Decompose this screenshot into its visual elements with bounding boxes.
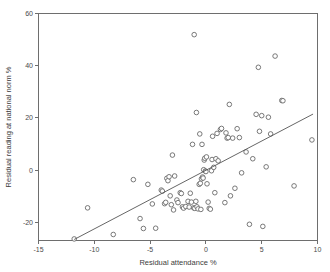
scatter-point — [215, 131, 220, 136]
scatter-point — [239, 171, 244, 176]
scatter-point — [223, 200, 228, 205]
scatter-point — [190, 142, 195, 147]
scatter-point — [261, 224, 266, 229]
scatter-point — [169, 202, 174, 207]
x-tick-label: -10 — [89, 246, 99, 253]
scatter-point — [247, 222, 252, 227]
scatter-point — [205, 182, 210, 187]
scatter-point — [206, 200, 211, 205]
scatter-point — [216, 159, 221, 164]
scatter-point — [264, 165, 269, 170]
y-axis-ticks: -200204060 — [23, 10, 39, 226]
scatter-point — [153, 226, 158, 231]
y-tick-label: 0 — [29, 167, 33, 174]
scatter-point — [194, 110, 199, 115]
scatter-point — [192, 32, 197, 37]
scatter-point — [228, 194, 233, 199]
scatter-point — [172, 174, 177, 179]
scatter-point — [219, 126, 224, 131]
x-axis-label: Residual attendance % — [139, 258, 216, 267]
x-tick-label: -5 — [147, 246, 153, 253]
scatter-point — [250, 156, 255, 161]
scatter-point — [281, 98, 286, 103]
scatter-point — [141, 226, 146, 231]
scatter-point — [197, 132, 202, 137]
scatter-point — [171, 208, 176, 213]
scatter-point — [201, 176, 206, 181]
x-tick-label: 5 — [260, 246, 264, 253]
scatter-point — [200, 142, 205, 147]
scatter-point — [273, 54, 278, 59]
scatter-point — [163, 200, 168, 205]
scatter-plot-figure: -15-10-50510 -200204060 Residual attenda… — [0, 0, 330, 272]
scatter-point — [194, 199, 199, 204]
trendline — [74, 114, 313, 239]
scatter-point — [310, 138, 315, 143]
scatter-point — [257, 129, 262, 134]
scatter-point — [199, 207, 204, 212]
scatter-point — [189, 200, 194, 205]
scatter-point — [266, 115, 271, 120]
scatter-point — [259, 113, 264, 118]
x-tick-label: 10 — [314, 246, 322, 253]
chart-canvas: -15-10-50510 -200204060 Residual attenda… — [0, 0, 330, 272]
scatter-point — [230, 136, 235, 141]
x-tick-label: 0 — [204, 246, 208, 253]
scatter-point — [176, 200, 181, 205]
y-tick-label: 20 — [25, 114, 33, 121]
data-points — [72, 32, 314, 241]
x-axis-ticks: -15-10-50510 — [33, 241, 321, 253]
scatter-point — [204, 155, 209, 160]
scatter-point — [167, 174, 172, 179]
scatter-point — [168, 194, 173, 199]
scatter-point — [233, 186, 238, 191]
scatter-point — [187, 205, 192, 210]
scatter-point — [292, 184, 297, 189]
axis-frame — [39, 14, 318, 241]
scatter-point — [254, 112, 259, 117]
scatter-point — [111, 232, 116, 237]
scatter-point — [213, 190, 218, 195]
scatter-point — [188, 191, 193, 196]
scatter-point — [198, 181, 203, 186]
scatter-point — [237, 135, 242, 140]
scatter-point — [235, 126, 240, 131]
scatter-point — [226, 135, 231, 140]
scatter-point — [208, 207, 213, 212]
scatter-point — [210, 134, 215, 139]
scatter-point — [138, 216, 143, 221]
scatter-point — [227, 102, 232, 107]
scatter-point — [179, 191, 184, 196]
regression-line — [74, 114, 313, 239]
scatter-point — [131, 177, 136, 182]
axes — [39, 14, 318, 241]
scatter-point — [150, 202, 155, 207]
scatter-point — [256, 65, 261, 70]
scatter-point — [224, 131, 229, 136]
scatter-point — [170, 153, 175, 158]
y-axis-label: Residual reading at national norm % — [4, 66, 13, 187]
x-tick-label: -15 — [33, 246, 43, 253]
scatter-point — [146, 182, 151, 187]
y-tick-label: -20 — [23, 219, 33, 226]
scatter-point — [85, 206, 90, 211]
y-tick-label: 40 — [25, 62, 33, 69]
y-tick-label: 60 — [25, 10, 33, 17]
